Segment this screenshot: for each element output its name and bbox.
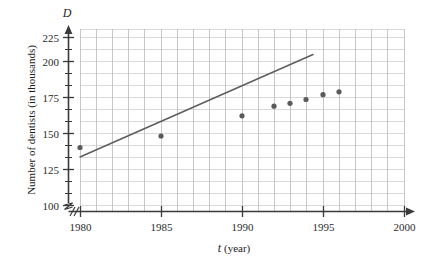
data-point <box>271 104 276 109</box>
y-tick-label: 225 <box>43 32 60 44</box>
data-point <box>239 113 244 118</box>
y-tick-label: 100 <box>43 200 60 212</box>
data-point <box>158 133 163 138</box>
y-tick-label: 150 <box>43 128 60 140</box>
x-tick-label: 1995 <box>313 221 336 233</box>
y-tick-label: 200 <box>43 56 60 68</box>
data-point <box>287 101 292 106</box>
x-axis-unit-label: (year) <box>224 242 251 255</box>
x-tick-label: 1980 <box>70 221 93 233</box>
data-point <box>320 92 325 97</box>
data-point <box>303 97 308 102</box>
x-tick-label: 1985 <box>151 221 174 233</box>
y-axis-title: Number of dentists (in thousands) <box>25 45 38 195</box>
y-axis-variable-label: D <box>62 6 72 20</box>
y-tick-label: 125 <box>43 164 60 176</box>
x-tick-label: 2000 <box>394 221 417 233</box>
dentists-scatter-chart: 100 125 150 175 200 225 1980 1985 1990 1… <box>0 0 421 266</box>
data-point <box>336 89 341 94</box>
data-point <box>77 145 82 150</box>
x-tick-label: 1990 <box>232 221 255 233</box>
y-tick-label: 175 <box>43 92 60 104</box>
